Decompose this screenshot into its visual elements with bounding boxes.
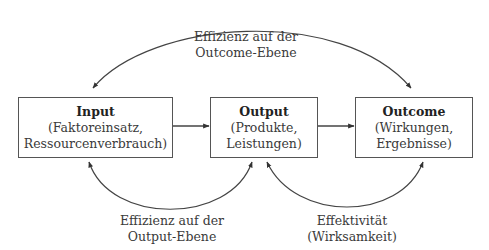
- label-outcome-efficiency-line2: Outcome-Ebene: [194, 45, 298, 61]
- node-output-line2: Leistungen): [226, 136, 302, 152]
- node-input-line2: Ressourcenverbrauch): [24, 136, 167, 152]
- label-effectiveness-line1: Effektivität: [307, 213, 397, 229]
- label-outcome-efficiency-line1: Effizienz auf der: [194, 29, 298, 45]
- label-output-efficiency: Effizienz auf der Output-Ebene: [120, 213, 224, 245]
- node-input-title: Input: [76, 104, 115, 120]
- node-outcome-title: Outcome: [383, 104, 446, 120]
- arc-output-efficiency: [89, 162, 252, 209]
- node-outcome-line2: Ergebnisse): [376, 136, 452, 152]
- label-effectiveness: Effektivität (Wirksamkeit): [307, 213, 397, 245]
- node-output-line1: (Produkte,: [231, 120, 298, 136]
- node-outcome-line1: (Wirkungen,: [375, 120, 454, 136]
- node-outcome: Outcome (Wirkungen, Ergebnisse): [355, 97, 473, 158]
- label-output-efficiency-line1: Effizienz auf der: [120, 213, 224, 229]
- arc-effectiveness: [267, 162, 423, 207]
- node-output-title: Output: [239, 104, 288, 120]
- node-input-line1: (Faktoreinsatz,: [48, 120, 143, 136]
- label-effectiveness-line2: (Wirksamkeit): [307, 229, 397, 245]
- label-outcome-efficiency: Effizienz auf der Outcome-Ebene: [194, 29, 298, 61]
- label-output-efficiency-line2: Output-Ebene: [120, 229, 224, 245]
- node-input: Input (Faktoreinsatz, Ressourcenverbrauc…: [18, 97, 173, 158]
- node-output: Output (Produkte, Leistungen): [210, 97, 318, 158]
